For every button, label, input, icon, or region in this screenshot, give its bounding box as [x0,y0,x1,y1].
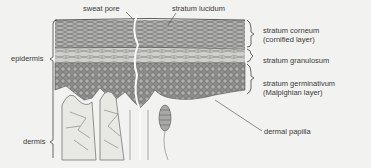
dermal-papillae [62,91,124,160]
label-stratum-granulosum: stratum granulosum [263,57,329,66]
tactile-corpuscle [159,105,171,160]
label-stratum-germinativum-sub: (Malpighian layer) [263,89,335,98]
label-stratum-corneum-sub: (cornified layer) [263,36,319,45]
label-stratum-lucidum: stratum lucidum [172,5,225,14]
dermis-bracket [50,96,53,158]
dermal-papilla-leader [215,100,262,131]
granulosum-bracket [247,49,253,62]
label-stratum-germinativum: stratum germinativum (Malpighian layer) [263,80,335,97]
stratum-granulosum-layer [55,47,245,63]
germinativum-bracket [247,64,254,94]
stratum-corneum-layer [55,19,245,49]
label-dermal-papilla: dermal papilla [264,128,311,137]
label-sweat-pore: sweat pore [83,5,120,14]
label-stratum-corneum: stratum corneum (cornified layer) [263,27,319,44]
label-epidermis: epidermis [11,55,44,64]
corneum-bracket [247,20,254,47]
label-dermis: dermis [23,138,46,147]
